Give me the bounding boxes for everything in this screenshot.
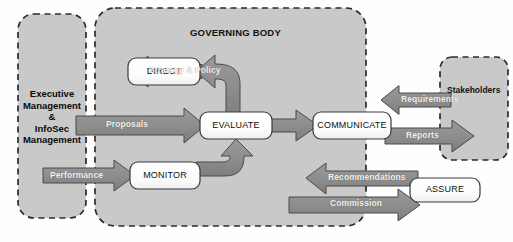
executive-label-line-3: & [14,111,90,123]
flow-label-requirements: Requirements [401,94,459,104]
executive-label-line-1: Executive [14,88,90,100]
executive-label-line-2: Management [14,100,90,112]
flow-label-proposals: Proposals [106,119,148,129]
process-label-monitor: MONITOR [130,170,200,180]
zone-stakeholders [440,57,508,160]
flow-label-strategy-policy: Strategy & Policy [149,65,221,75]
process-label-communicate: COMMUNICATE [313,120,391,130]
executive-management-label: Executive Management & InfoSec Managemen… [14,88,90,146]
figure-canvas: GOVERNING BODY Stakeholders Executive Ma… [0,0,513,242]
executive-label-line-5: Management [14,134,90,146]
governing-body-title: GOVERNING BODY [190,27,281,38]
process-label-evaluate: EVALUATE [200,120,272,130]
flow-label-commission: Commission [330,198,382,208]
flow-label-performance: Performance [50,170,103,180]
executive-label-line-4: InfoSec [14,123,90,135]
flow-label-reports: Reports [406,130,439,140]
process-label-assure: ASSURE [410,184,480,194]
flow-label-recommendations: Recommendations [328,172,406,182]
